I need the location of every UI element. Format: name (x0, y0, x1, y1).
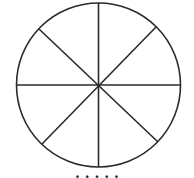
caption-text-cropped: · · · · · (0, 170, 194, 178)
sector-diagram (0, 0, 194, 178)
